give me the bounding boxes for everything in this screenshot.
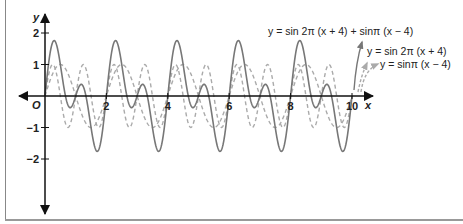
y-tick-label: −1 xyxy=(26,122,39,134)
label-curve-a: y = sin 2π (x + 4) xyxy=(367,45,447,57)
x-tick-label: 2 xyxy=(103,100,109,112)
arrow-curve-b xyxy=(361,64,378,92)
x-tick-label: 10 xyxy=(346,100,358,112)
label-sum-curve: y = sin 2π (x + 4) + sinπ (x − 4) xyxy=(268,25,413,37)
y-tick-label: 2 xyxy=(33,27,39,39)
x-tick-label: 8 xyxy=(288,100,294,112)
y-tick-label: −2 xyxy=(26,153,39,165)
origin-label: O xyxy=(32,99,41,111)
y-axis-label: y xyxy=(32,11,40,23)
chart-plot: 24681021−1−2 y x O y = sin 2π (x + 4) + … xyxy=(0,0,463,224)
label-curve-b: y = sinπ (x − 4) xyxy=(380,58,451,70)
x-tick-label: 4 xyxy=(165,100,172,112)
x-tick-label: 6 xyxy=(226,100,232,112)
y-tick-label: 1 xyxy=(33,59,39,71)
x-axis-label: x xyxy=(364,99,372,111)
arrow-sum-curve xyxy=(354,42,362,90)
